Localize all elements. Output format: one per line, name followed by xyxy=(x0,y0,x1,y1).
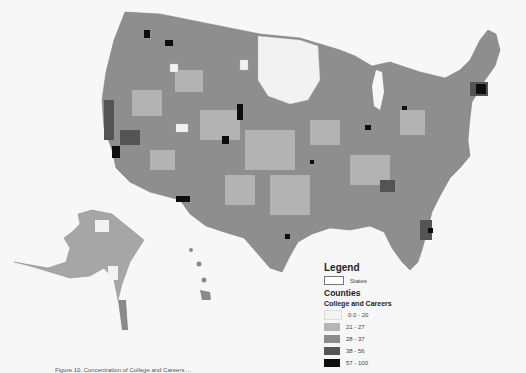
alaska-light-area xyxy=(95,220,109,232)
legend-class-row: 21 - 27 xyxy=(324,322,474,332)
legend-class-row: 0.0 - 20 xyxy=(324,310,474,320)
counties-label: Counties xyxy=(324,288,474,298)
alaska-panhandle xyxy=(118,300,128,330)
legend-class-row: 28 - 37 xyxy=(324,334,474,344)
class-label: 0.0 - 20 xyxy=(348,312,368,318)
swatch-38-56 xyxy=(324,347,340,355)
map-legend: Legend States Counties College and Caree… xyxy=(324,262,474,370)
legend-class-list: 0.0 - 20 21 - 27 28 - 37 38 - 56 57 - 10… xyxy=(324,310,474,368)
alaska-light-area xyxy=(108,266,118,280)
swatch-0-20 xyxy=(324,310,342,320)
legend-class-row: 38 - 56 xyxy=(324,346,474,356)
alaska xyxy=(14,210,144,300)
class-label: 38 - 56 xyxy=(346,348,365,354)
swatch-28-37 xyxy=(324,335,340,343)
legend-class-row: 57 - 100 xyxy=(324,358,474,368)
class-label: 28 - 37 xyxy=(346,336,365,342)
class-label: 21 - 27 xyxy=(346,324,365,330)
legend-title: Legend xyxy=(324,262,474,273)
class-label: 57 - 100 xyxy=(346,360,368,366)
states-label: States xyxy=(350,278,367,284)
legend-states-row: States xyxy=(324,276,474,285)
swatch-21-27 xyxy=(324,323,340,331)
figure-caption: Figure 10. Concentration of College and … xyxy=(55,367,191,373)
hawaii xyxy=(189,248,211,300)
swatch-57-100 xyxy=(324,359,340,367)
states-outline-swatch xyxy=(324,276,344,285)
variable-label: College and Careers xyxy=(324,300,474,307)
